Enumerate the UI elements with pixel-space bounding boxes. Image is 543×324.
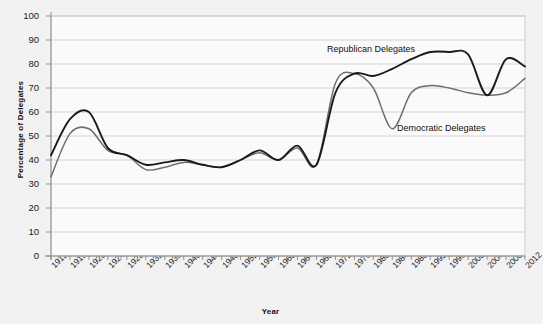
series-label-republican: Republican Delegates [327,44,415,54]
series-label-democratic: Democratic Delegates [397,123,486,133]
